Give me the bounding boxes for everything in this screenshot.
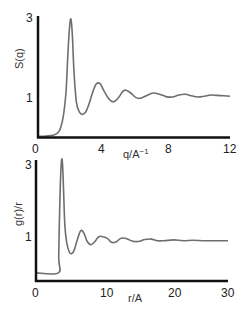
gr-curve <box>36 159 228 274</box>
sq-chart: 3 1 0 4 8 12 S(q) q/A−1 <box>13 11 237 160</box>
sq-curve <box>38 19 230 137</box>
gr-ylabel: g(r)/r <box>12 202 24 226</box>
sq-xlabel: q/A−1 <box>123 147 149 160</box>
sq-ylabel: S(q) <box>13 48 25 69</box>
gr-xtick-30: 30 <box>221 286 235 300</box>
gr-chart: 3 1 0 10 20 30 g(r)/r r/A <box>12 158 235 304</box>
gr-xtick-20: 20 <box>168 286 182 300</box>
gr-ytick-1: 1 <box>25 230 32 244</box>
sq-xtick-12: 12 <box>223 142 237 156</box>
sq-xtick-4: 4 <box>98 142 105 156</box>
gr-xlabel: r/A <box>128 292 143 304</box>
sq-ytick-3: 3 <box>26 11 33 25</box>
gr-xtick-0: 0 <box>32 286 39 300</box>
gr-xtick-10: 10 <box>100 286 114 300</box>
gr-ytick-3: 3 <box>25 158 32 172</box>
sq-ytick-1: 1 <box>26 91 33 105</box>
figure: 3 1 0 4 8 12 S(q) q/A−1 3 1 0 10 20 30 g… <box>0 0 245 314</box>
sq-xtick-8: 8 <box>165 142 172 156</box>
sq-xtick-0: 0 <box>32 142 39 156</box>
